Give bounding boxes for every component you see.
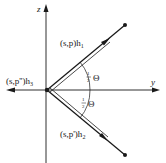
svg-text:Θ: Θ <box>88 99 95 109</box>
svg-text:1: 1 <box>87 71 90 76</box>
y-axis-label: y <box>150 77 155 87</box>
z-axis: z <box>36 4 49 163</box>
lower-angle-label: 1 2 Θ <box>82 97 96 109</box>
svg-text:2: 2 <box>82 104 85 109</box>
h1-endpoint <box>123 23 127 27</box>
svg-text:Θ: Θ <box>93 73 100 83</box>
y-axis-arrowhead-icon <box>152 88 160 93</box>
upper-angle-label: 1 2 Θ <box>87 71 101 83</box>
h2-label: (s,p')h2 <box>60 129 85 140</box>
z-axis-label: z <box>36 4 41 14</box>
z-axis-arrowhead-icon <box>44 4 49 12</box>
h3-label: (s,p'')h3 <box>6 76 33 87</box>
scattering-geometry-diagram: z y (s,p'')h3 (s,p)h1 (s,p')h2 <box>0 0 166 163</box>
h2-endpoint <box>123 153 127 157</box>
h3-arrowhead-icon <box>6 88 15 93</box>
vector-h2: (s,p')h2 <box>47 88 127 157</box>
svg-text:1: 1 <box>82 97 85 102</box>
h1-label: (s,p)h1 <box>60 38 84 49</box>
